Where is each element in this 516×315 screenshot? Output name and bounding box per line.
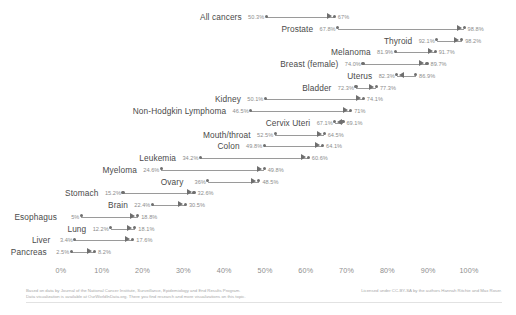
end-point [321, 144, 324, 147]
start-point [263, 144, 266, 147]
arrow-right-icon [454, 37, 459, 43]
start-point [70, 250, 73, 253]
end-point [184, 203, 187, 206]
arrow-right-icon [369, 84, 374, 90]
end-point [307, 156, 310, 159]
end-point [414, 73, 417, 76]
start-point [264, 97, 267, 100]
arrow-right-icon [317, 131, 322, 137]
start-point [265, 15, 268, 18]
arrow-right-icon [301, 154, 306, 160]
start-point [121, 191, 124, 194]
arrow-right-icon [178, 201, 183, 207]
end-point [341, 120, 344, 123]
arrow-right-icon [419, 60, 424, 66]
end-point [257, 179, 260, 182]
footer-source-line-2: Data visualization is available at OurWo… [26, 294, 296, 300]
x-axis-tick: 50% [258, 266, 273, 275]
arrow-right-icon [428, 48, 433, 54]
x-axis: 0%10%20%30%40%50%60%70%80%90%100% [0, 266, 516, 280]
start-point [199, 156, 202, 159]
arrow-chart: All cancers50.3%67%Prostate67.8%98.8%Thy… [0, 0, 516, 315]
start-point [151, 203, 154, 206]
end-point [131, 238, 134, 241]
end-point [425, 62, 428, 65]
end-point [133, 226, 136, 229]
x-axis-tick: 10% [94, 266, 109, 275]
chart-footer: Based on data by Journal of the National… [0, 288, 516, 314]
arrow-right-icon [257, 166, 262, 172]
connector-line [123, 193, 194, 194]
footer-divider [26, 302, 502, 303]
chart-row: Pancreas2.5%8.2% [0, 246, 516, 259]
arrow-right-icon [315, 142, 320, 148]
arrow-left-icon [399, 72, 404, 78]
end-point [333, 15, 336, 18]
connector-line [265, 99, 363, 100]
connector-line [338, 29, 464, 30]
x-axis-tick: 90% [421, 266, 436, 275]
arrow-right-icon [356, 95, 361, 101]
arrow-right-icon [87, 248, 92, 254]
arrow-right-icon [251, 178, 256, 184]
end-point [434, 50, 437, 53]
end-point [362, 97, 365, 100]
start-point [361, 62, 364, 65]
start-point [274, 132, 277, 135]
x-axis-tick: 100% [459, 266, 478, 275]
connector-line [161, 170, 264, 171]
end-point [323, 132, 326, 135]
arrow-right-icon [127, 225, 132, 231]
arrow-right-icon [125, 236, 130, 242]
arrow-right-icon [457, 25, 462, 31]
category-label: Pancreas [0, 246, 47, 259]
end-point [93, 250, 96, 253]
footer-license: Licensed under CC-BY-SA by the authors H… [292, 288, 502, 294]
start-point [249, 109, 252, 112]
connector-line [251, 111, 351, 112]
end-point [349, 109, 352, 112]
x-axis-tick: 40% [217, 266, 232, 275]
start-value-label: 2.5% [47, 246, 69, 259]
end-point [460, 38, 463, 41]
footer-source: Based on data by Journal of the National… [26, 288, 296, 300]
x-axis-tick: 0% [56, 266, 67, 275]
start-point [394, 50, 397, 53]
connector-line [201, 158, 309, 159]
x-axis-tick: 80% [380, 266, 395, 275]
x-axis-tick: 70% [339, 266, 354, 275]
end-point [375, 85, 378, 88]
x-axis-tick: 20% [135, 266, 150, 275]
connector-line [264, 146, 322, 147]
arrow-right-icon [327, 13, 332, 19]
connector-line [75, 240, 133, 241]
arrow-right-icon [130, 213, 135, 219]
start-point [354, 85, 357, 88]
plot-area: All cancers50.3%67%Prostate67.8%98.8%Thy… [0, 6, 516, 260]
connector-line [363, 64, 427, 65]
arrow-right-icon [187, 189, 192, 195]
x-axis-tick: 30% [176, 266, 191, 275]
connector-line [266, 17, 334, 18]
x-axis-tick: 60% [298, 266, 313, 275]
end-point [192, 191, 195, 194]
end-point [136, 214, 139, 217]
end-value-label: 8.2% [98, 246, 128, 259]
arrow-right-icon [343, 107, 348, 113]
